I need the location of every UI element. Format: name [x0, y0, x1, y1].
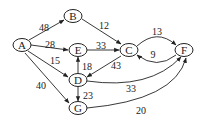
weight-a-e: 28 [45, 39, 55, 50]
svg-text:G: G [74, 102, 82, 114]
svg-text:F: F [181, 44, 187, 56]
weight-a-g: 40 [36, 80, 46, 91]
node-e: E [69, 44, 87, 57]
weight-d-e: 18 [82, 61, 92, 72]
node-a: A [13, 39, 31, 52]
svg-text:C: C [125, 44, 132, 56]
weight-f-c: 9 [151, 49, 156, 60]
node-c: C [120, 44, 138, 57]
node-f: F [175, 44, 193, 57]
svg-text:B: B [69, 10, 76, 22]
node-d: D [69, 74, 87, 87]
graph-diagram: 48 28 15 40 12 33 43 18 23 13 9 33 20 A … [0, 0, 209, 126]
edge-c-f [137, 37, 176, 46]
edge-f-c [137, 55, 176, 63]
weight-e-c: 33 [96, 40, 106, 51]
svg-text:A: A [18, 39, 26, 51]
weight-a-d: 15 [50, 55, 60, 66]
weight-c-f: 13 [152, 26, 162, 37]
weight-d-g: 23 [83, 90, 93, 101]
svg-text:E: E [75, 44, 82, 56]
weight-c-d: 43 [111, 60, 121, 71]
weight-d-f: 33 [126, 83, 136, 94]
node-b: B [64, 10, 82, 23]
edge-a-d [28, 51, 68, 77]
node-g: G [69, 102, 87, 115]
weight-g-f: 20 [136, 105, 146, 116]
weight-b-c: 12 [99, 20, 109, 31]
edge-a-g [25, 53, 69, 103]
weight-a-b: 48 [39, 22, 49, 33]
svg-text:D: D [74, 74, 82, 86]
